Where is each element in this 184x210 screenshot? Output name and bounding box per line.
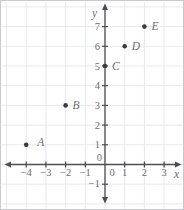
point-label-A: A bbox=[36, 136, 45, 148]
y-axis-down-arrow-icon bbox=[102, 197, 108, 204]
x-tick-label: −4 bbox=[21, 167, 33, 178]
x-axis-label: x bbox=[173, 168, 180, 180]
x-tick-label: 3 bbox=[161, 167, 166, 178]
x-tick-label: 0 bbox=[109, 167, 114, 178]
y-tick-label: 4 bbox=[95, 80, 101, 91]
y-tick-label: 6 bbox=[95, 41, 100, 52]
point-label-D: D bbox=[131, 40, 141, 52]
y-tick-label: 3 bbox=[95, 100, 100, 111]
y-tick-label: 7 bbox=[95, 21, 100, 32]
y-tick-label: −1 bbox=[89, 178, 100, 189]
point-D bbox=[122, 44, 127, 49]
x-axis-right-arrow-icon bbox=[175, 162, 182, 168]
y-tick-label: 1 bbox=[95, 139, 100, 150]
point-B bbox=[63, 103, 68, 108]
coordinate-plane-figure: −4−3−2−10123−101234567yxABCDE bbox=[0, 0, 184, 210]
y-tick-label: 5 bbox=[95, 61, 100, 72]
x-tick-label: 2 bbox=[142, 167, 147, 178]
point-A bbox=[24, 143, 29, 148]
point-label-C: C bbox=[112, 60, 120, 72]
point-label-B: B bbox=[73, 99, 80, 111]
x-tick-label: −2 bbox=[60, 167, 71, 178]
x-tick-label: −3 bbox=[40, 167, 51, 178]
x-tick-label: −1 bbox=[80, 167, 91, 178]
scatter-plot-canvas: −4−3−2−10123−101234567yxABCDE bbox=[1, 1, 184, 210]
point-label-E: E bbox=[150, 20, 158, 32]
point-E bbox=[142, 24, 147, 29]
y-tick-label: 2 bbox=[95, 120, 100, 131]
y-axis-label: y bbox=[91, 7, 98, 20]
x-axis-left-arrow-icon bbox=[5, 162, 12, 168]
point-C bbox=[103, 64, 108, 69]
y-tick-label: 0 bbox=[97, 152, 102, 163]
x-tick-label: 1 bbox=[122, 167, 127, 178]
